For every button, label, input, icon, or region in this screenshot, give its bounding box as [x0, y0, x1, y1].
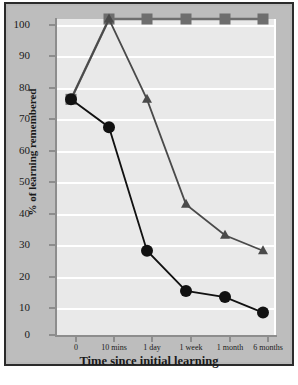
y-tick-label-100: 100: [4, 19, 30, 30]
y-tick-70: [49, 118, 56, 120]
y-tick-100: [49, 24, 56, 26]
x-tick-label-10mins: 10 mins: [101, 343, 127, 352]
y-tick-20: [49, 276, 56, 278]
y-tick-60: [49, 150, 56, 152]
x-tick-label-0: 0: [74, 343, 78, 352]
chart-screenshot: 100 90 80 70 60 50 40 30 20 10 0 0 10 mi…: [0, 0, 298, 385]
y-axis-line: [55, 18, 57, 337]
figure-frame: 100 90 80 70 60 50 40 30 20 10 0 0 10 mi…: [4, 2, 294, 366]
x-tick-1week: [190, 336, 192, 342]
y-tick-0: [49, 334, 56, 336]
gridline-80: [56, 88, 276, 90]
x-tick-0: [75, 336, 77, 342]
x-tick-label-1day: 1 day: [143, 343, 161, 352]
plot-right-spine: [274, 19, 276, 335]
gridline-40: [56, 214, 276, 216]
x-axis-line: [55, 335, 277, 337]
x-tick-label-6months: 6 months: [253, 343, 283, 352]
gridline-10: [56, 308, 276, 310]
gridline-30: [56, 245, 276, 247]
y-axis-title: % of learning remembered: [26, 52, 38, 252]
x-tick-1month: [229, 336, 231, 342]
x-axis-title: Time since initial learning: [8, 354, 290, 369]
y-tick-40: [49, 213, 56, 215]
x-tick-10mins: [113, 336, 115, 342]
x-tick-1day: [151, 336, 153, 342]
gridline-70: [56, 119, 276, 121]
plot-area: [56, 19, 276, 335]
gridline-50: [56, 182, 276, 184]
y-tick-30: [49, 244, 56, 246]
y-tick-label-10: 10: [4, 302, 30, 313]
y-tick-90: [49, 55, 56, 57]
caption-sliver: [4, 377, 294, 385]
y-tick-10: [49, 307, 56, 309]
figure-background: 100 90 80 70 60 50 40 30 20 10 0 0 10 mi…: [8, 6, 290, 362]
x-tick-label-1week: 1 week: [180, 343, 203, 352]
x-tick-label-1month: 1 month: [217, 343, 243, 352]
x-tick-6months: [267, 336, 269, 342]
gridline-100: [56, 25, 276, 27]
y-tick-label-0: 0: [4, 329, 30, 340]
y-tick-label-20: 20: [4, 271, 30, 282]
gridline-60: [56, 151, 276, 153]
gridline-20: [56, 277, 276, 279]
y-tick-50: [49, 181, 56, 183]
y-tick-80: [49, 87, 56, 89]
gridline-90: [56, 56, 276, 58]
